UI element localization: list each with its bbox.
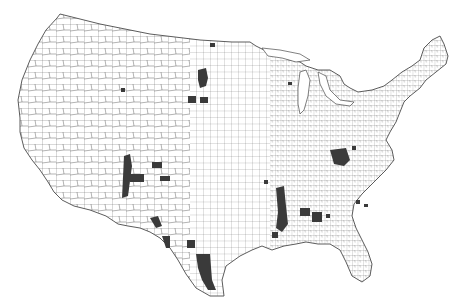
us-county-map xyxy=(0,0,464,307)
county-grid xyxy=(0,0,464,307)
map-canvas xyxy=(0,0,464,307)
